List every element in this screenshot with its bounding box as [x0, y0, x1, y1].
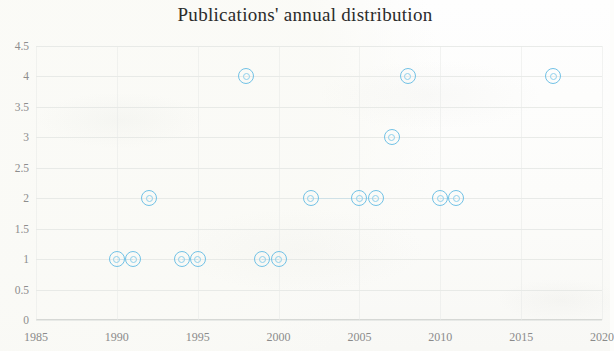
y-axis-tick-label: 2.5 [15, 162, 29, 174]
chart-title: Publications' annual distribution [0, 4, 610, 26]
data-point[interactable] [351, 190, 367, 206]
data-point[interactable] [448, 190, 464, 206]
data-point[interactable] [125, 251, 141, 267]
x-axis-tick-label: 2000 [267, 330, 291, 345]
x-gridline [602, 46, 603, 320]
y-gridline [36, 107, 602, 108]
x-axis-tick-label: 1985 [24, 330, 48, 345]
y-axis-tick-label: 4 [23, 70, 29, 82]
data-point[interactable] [254, 251, 270, 267]
y-gridline [36, 229, 602, 230]
data-point[interactable] [271, 251, 287, 267]
x-gridline [36, 46, 37, 320]
x-axis-tick-label: 2020 [590, 330, 614, 345]
data-point[interactable] [545, 68, 561, 84]
x-axis-tick-label: 2005 [347, 330, 371, 345]
x-gridline [521, 46, 522, 320]
y-axis-tick-label: 0.5 [15, 284, 29, 296]
y-axis-tick-label: 1.5 [15, 223, 29, 235]
data-point[interactable] [303, 190, 319, 206]
y-axis-tick-label: 4.5 [15, 40, 29, 52]
x-gridline [279, 46, 280, 320]
y-axis-tick-label: 3 [23, 131, 29, 143]
plot-area: 00.511.522.533.544.519851990199520002005… [36, 46, 602, 320]
x-axis-tick-label: 1990 [105, 330, 129, 345]
data-point[interactable] [368, 190, 384, 206]
data-point[interactable] [141, 190, 157, 206]
data-point[interactable] [432, 190, 448, 206]
y-axis-tick-label: 2 [23, 192, 29, 204]
x-gridline [359, 46, 360, 320]
data-point[interactable] [109, 251, 125, 267]
data-point[interactable] [190, 251, 206, 267]
y-axis-tick-label: 0 [23, 314, 29, 326]
y-axis-tick-label: 1 [23, 253, 29, 265]
y-gridline [36, 290, 602, 291]
y-gridline [36, 168, 602, 169]
y-axis-tick-label: 3.5 [15, 101, 29, 113]
x-axis-tick-label: 2015 [509, 330, 533, 345]
y-gridline [36, 320, 602, 321]
x-gridline [440, 46, 441, 320]
data-point[interactable] [174, 251, 190, 267]
x-axis-tick-label: 2010 [428, 330, 452, 345]
y-gridline [36, 46, 602, 47]
y-gridline [36, 137, 602, 138]
data-point[interactable] [400, 68, 416, 84]
data-point[interactable] [384, 129, 400, 145]
x-gridline [117, 46, 118, 320]
x-gridline [198, 46, 199, 320]
x-axis-tick-label: 1995 [186, 330, 210, 345]
data-point[interactable] [238, 68, 254, 84]
y-gridline [36, 76, 602, 77]
